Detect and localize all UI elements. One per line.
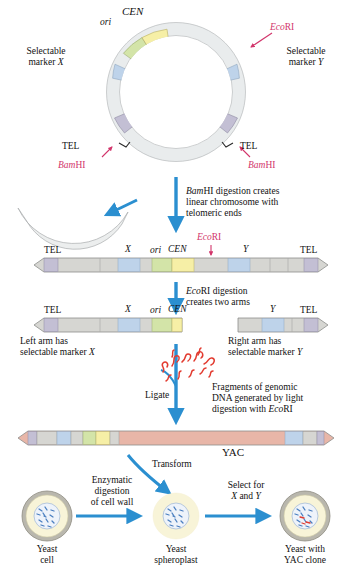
cell-flow-arrows (0, 0, 352, 564)
figure-canvas: ori CEN EcoRI Selectablemarker X Selecta… (0, 0, 352, 564)
